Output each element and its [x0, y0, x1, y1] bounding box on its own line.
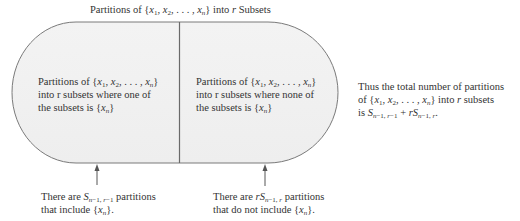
right-region-line-1: Partitions of {x1, x2, . . . , xn} [196, 75, 316, 88]
right-arrow-icon [263, 164, 268, 186]
right-caption: There are rSn−1, r partitions that do no… [213, 190, 324, 216]
left-region-line-1: Partitions of {x1, x2, . . . , xn} [38, 75, 158, 88]
left-region-line-2: into r subsets where one of [38, 88, 158, 101]
left-region-line-3: the subsets is {xn} [38, 101, 158, 114]
left-caption-line-1: There are Sn−1, r−1 partitions [41, 190, 156, 203]
summary-line-1: Thus the total number of partitions [358, 80, 504, 93]
right-region-text: Partitions of {x1, x2, . . . , xn} into … [196, 75, 316, 114]
left-caption: There are Sn−1, r−1 partitions that incl… [41, 190, 156, 216]
right-caption-line-2: that do not include {xn}. [213, 203, 324, 216]
summary-text: Thus the total number of partitions of {… [358, 80, 504, 119]
left-region-text: Partitions of {x1, x2, . . . , xn} into … [38, 75, 158, 114]
right-caption-line-1: There are rSn−1, r partitions [213, 190, 324, 203]
left-arrow-icon [95, 164, 100, 185]
left-caption-line-2: that include {xn}. [41, 203, 156, 216]
right-region-line-3: the subsets is {xn} [196, 101, 316, 114]
summary-line-3: is Sn−1, r−1 + rSn−1, r. [358, 106, 504, 119]
summary-line-2: of {x1, x2, . . . , xn} into r subsets [358, 93, 504, 106]
right-region-line-2: into r subsets where none of [196, 88, 316, 101]
diagram-title: Partitions of {x1, x2, . . . , xn} into … [90, 3, 271, 16]
